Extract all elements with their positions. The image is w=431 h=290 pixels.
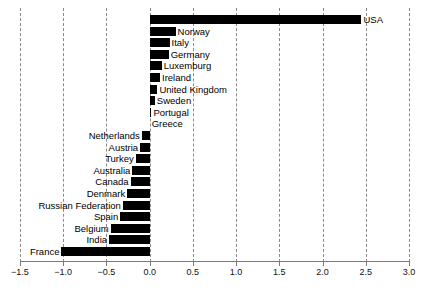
bar xyxy=(150,73,160,82)
bar xyxy=(111,224,150,233)
bar xyxy=(150,38,170,47)
bar xyxy=(150,96,155,105)
x-axis-tick-label: −1.5 xyxy=(11,267,29,277)
bar xyxy=(150,108,152,117)
bar xyxy=(140,143,150,152)
x-axis-tick xyxy=(236,262,237,266)
x-axis-tick xyxy=(323,262,324,266)
x-axis-tick xyxy=(150,262,151,266)
bar-row: France xyxy=(0,245,431,260)
bar xyxy=(127,189,149,198)
bar xyxy=(150,85,158,94)
x-axis-tick-label: 1.5 xyxy=(273,267,286,277)
x-axis-tick-label: 0.0 xyxy=(143,267,156,277)
bar xyxy=(136,154,150,163)
x-axis-tick xyxy=(106,262,107,266)
bar xyxy=(123,201,150,210)
bar xyxy=(150,61,162,70)
x-axis-tick xyxy=(409,262,410,266)
x-axis-tick-label: 1.0 xyxy=(230,267,243,277)
x-axis-tick-label: 2.5 xyxy=(360,267,373,277)
x-axis-tick-label: 2.0 xyxy=(316,267,329,277)
bar xyxy=(150,50,169,59)
x-axis-tick-label: 3.0 xyxy=(403,267,416,277)
plot-area: USANorwayItalyGermanyLuxemburgIrelandUni… xyxy=(0,0,431,262)
bar xyxy=(120,212,149,221)
bar-chart: USANorwayItalyGermanyLuxemburgIrelandUni… xyxy=(0,0,431,290)
bar xyxy=(131,177,150,186)
x-axis-tick xyxy=(279,262,280,266)
x-axis-tick xyxy=(366,262,367,266)
x-axis-tick xyxy=(193,262,194,266)
bar xyxy=(150,15,362,24)
bar xyxy=(142,131,150,140)
bar xyxy=(109,235,150,244)
x-axis-tick-label: −0.5 xyxy=(98,267,116,277)
bar xyxy=(150,27,176,36)
x-axis-tick-label: 0.5 xyxy=(187,267,200,277)
bar xyxy=(132,166,149,175)
bar xyxy=(61,247,149,256)
bar-label: France xyxy=(30,245,60,258)
x-axis-tick xyxy=(63,262,64,266)
x-axis-tick-label: −1.0 xyxy=(54,267,72,277)
x-axis-line xyxy=(20,261,410,262)
x-axis-tick xyxy=(20,262,21,266)
